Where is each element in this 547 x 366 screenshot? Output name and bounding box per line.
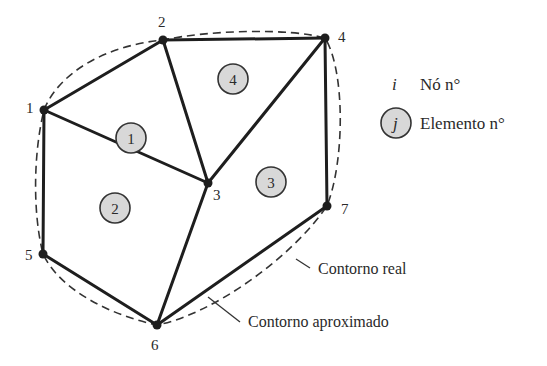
element-label-3: 3	[267, 175, 275, 191]
node-label-2: 2	[158, 14, 166, 30]
fem-mesh-diagram: 1 2 3 4 5 6 7 1 2 3 4 i Nó n° j Elemento…	[0, 0, 547, 366]
node-label-6: 6	[151, 337, 159, 353]
element-label-4: 4	[229, 72, 237, 88]
element-marker-4: 4	[218, 64, 248, 94]
element-marker-3: 3	[256, 167, 286, 197]
callout-leader-real	[296, 259, 310, 268]
element-marker-1: 1	[116, 123, 146, 153]
node-5-dot	[39, 250, 48, 259]
node-label-4: 4	[338, 29, 346, 45]
legend-node-symbol: i	[392, 75, 397, 94]
legend: i Nó n° j Elemento n°	[381, 75, 505, 138]
node-label-3: 3	[213, 187, 221, 203]
callout-real-boundary: Contorno real	[318, 260, 407, 277]
legend-element-label: Elemento n°	[420, 114, 505, 133]
callout-approx-boundary: Contorno aproximado	[248, 313, 389, 331]
element-marker-2: 2	[100, 193, 130, 223]
legend-node-label: Nó n°	[420, 75, 460, 94]
node-7-dot	[323, 202, 332, 211]
legend-element-symbol: j	[391, 114, 398, 133]
element-label-1: 1	[127, 131, 135, 147]
node-dots	[39, 34, 332, 330]
node-label-5: 5	[25, 247, 33, 263]
node-label-1: 1	[26, 100, 34, 116]
callout-leader-approx	[208, 297, 240, 322]
node-4-dot	[321, 34, 330, 43]
node-6-dot	[153, 321, 162, 330]
element-label-2: 2	[111, 201, 119, 217]
node-3-dot	[204, 179, 213, 188]
node-2-dot	[159, 36, 168, 45]
node-1-dot	[40, 106, 49, 115]
node-label-7: 7	[341, 201, 349, 217]
